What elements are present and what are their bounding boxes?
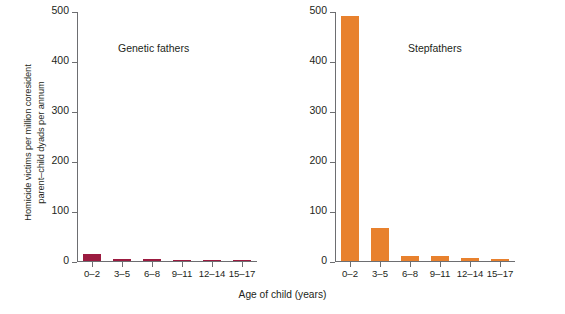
x-axis-tick-label: 3–5 [372, 268, 388, 279]
y-axis-tick: 100 [72, 212, 77, 213]
panel-title-genetic-fathers: Genetic fathers [118, 42, 189, 54]
y-axis-tick: 200 [330, 162, 335, 163]
y-axis-tick-label: 400 [309, 54, 327, 66]
y-axis-tick-label: 400 [51, 54, 69, 66]
bar [461, 258, 479, 261]
y-axis-line-left [77, 12, 78, 262]
y-axis-tick: 500 [72, 12, 77, 13]
y-axis-tick-label: 500 [51, 4, 69, 16]
x-axis-tick [470, 262, 471, 267]
bar [83, 254, 101, 261]
y-axis-tick-label: 300 [309, 104, 327, 116]
y-axis-tick-label: 0 [63, 254, 69, 266]
x-axis-tick [242, 262, 243, 267]
y-axis-tick-label: 100 [309, 204, 327, 216]
x-axis-tick-label: 0–2 [342, 268, 358, 279]
x-axis-tick-label: 12–14 [199, 268, 226, 279]
x-axis-tick-label: 12–14 [457, 268, 484, 279]
x-axis-tick [182, 262, 183, 267]
y-axis-tick-label: 0 [321, 254, 327, 266]
bar [173, 260, 191, 262]
x-axis-tick-label: 15–17 [487, 268, 514, 279]
x-axis-tick [350, 262, 351, 267]
x-axis-line-left [77, 261, 257, 262]
x-axis-tick [500, 262, 501, 267]
x-axis-tick [92, 262, 93, 267]
y-axis-tick: 400 [330, 62, 335, 63]
x-axis-tick [212, 262, 213, 267]
x-axis-tick-label: 6–8 [402, 268, 418, 279]
y-axis-tick: 400 [72, 62, 77, 63]
panel-title-stepfathers: Stepfathers [408, 42, 462, 54]
x-axis-tick [440, 262, 441, 267]
x-axis-tick-label: 9–11 [430, 268, 451, 279]
y-axis-tick: 500 [330, 12, 335, 13]
x-axis-tick [152, 262, 153, 267]
y-axis-tick: 0 [330, 262, 335, 263]
bar [491, 259, 509, 262]
x-axis-tick-label: 0–2 [84, 268, 100, 279]
bar [371, 228, 389, 262]
y-axis-tick-label: 200 [309, 154, 327, 166]
x-axis-tick-label: 6–8 [144, 268, 160, 279]
x-axis-title: Age of child (years) [0, 289, 565, 300]
y-axis-tick: 200 [72, 162, 77, 163]
y-axis-tick-label: 100 [51, 204, 69, 216]
x-axis-tick [410, 262, 411, 267]
x-axis-tick-label: 3–5 [114, 268, 130, 279]
y-axis-tick: 100 [330, 212, 335, 213]
bar [143, 259, 161, 261]
x-axis-tick-label: 15–17 [229, 268, 256, 279]
bar [113, 259, 131, 262]
x-axis-line-right [335, 261, 515, 262]
x-axis-tick [380, 262, 381, 267]
bar-chart-figure: Homicide victims per million coresident … [0, 0, 565, 314]
y-axis-tick-label: 200 [51, 154, 69, 166]
bar [401, 256, 419, 261]
bar [341, 16, 359, 261]
x-axis-tick-label: 9–11 [172, 268, 193, 279]
y-axis-line-right [335, 12, 336, 262]
bar [203, 260, 221, 262]
bar [233, 260, 251, 262]
y-axis-tick-label: 300 [51, 104, 69, 116]
y-axis-tick-label: 500 [309, 4, 327, 16]
y-axis-tick: 300 [330, 112, 335, 113]
y-axis-tick: 0 [72, 262, 77, 263]
bar [431, 256, 449, 261]
y-axis-tick: 300 [72, 112, 77, 113]
x-axis-tick [122, 262, 123, 267]
